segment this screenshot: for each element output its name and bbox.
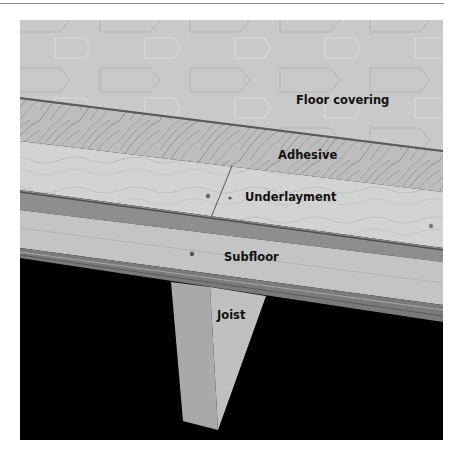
floor-layers-photo: [20, 20, 443, 440]
label-adhesive: Adhesive: [278, 148, 337, 162]
top-rule: [0, 3, 444, 4]
floor-layers-illustration: [20, 20, 443, 440]
label-subfloor: Subfloor: [224, 250, 279, 264]
label-floor-covering: Floor covering: [296, 93, 389, 107]
label-underlayment: Underlayment: [245, 190, 337, 204]
label-joist: Joist: [217, 308, 245, 322]
joist-left-face: [171, 282, 218, 430]
